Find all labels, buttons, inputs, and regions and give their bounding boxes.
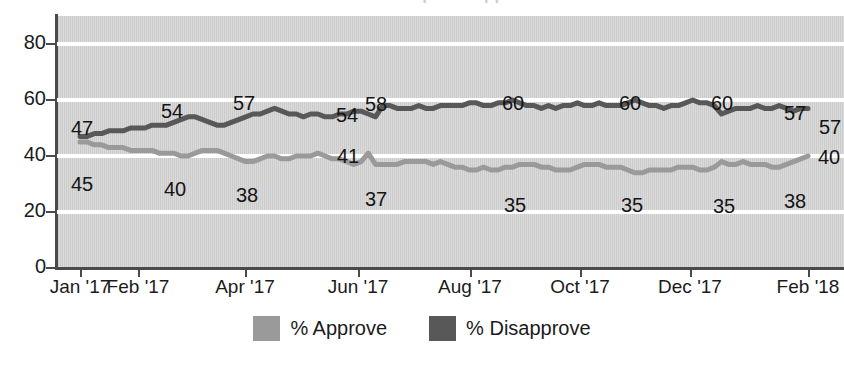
chart-root: President Trump Job Approval 020406080 4… (0, 0, 844, 367)
legend-item-disapprove[interactable]: % Disapprove (429, 316, 591, 341)
y-tick-mark-20 (46, 211, 56, 213)
legend-item-approve[interactable]: % Approve (253, 316, 387, 341)
data-label-0: 47 (71, 117, 93, 140)
y-tick-mark-60 (46, 99, 56, 101)
plot-area: 4745544057385458413760356035603557574038 (57, 16, 844, 268)
data-label-19: 38 (784, 190, 806, 213)
data-label-2: 54 (161, 100, 183, 123)
y-tick-mark-40 (46, 155, 56, 157)
legend-swatch-icon (429, 316, 456, 341)
data-label-8: 41 (337, 145, 359, 168)
series-lines (57, 16, 844, 268)
x-tick-label-1: Feb '17 (107, 276, 170, 298)
data-label-15: 35 (713, 195, 735, 218)
data-label-12: 60 (619, 92, 641, 115)
data-label-13: 35 (621, 194, 643, 217)
y-tick-label-0: 0 (0, 255, 46, 278)
y-tick-label-40: 40 (0, 143, 46, 166)
y-tick-label-80: 80 (0, 31, 46, 54)
data-label-14: 60 (711, 92, 733, 115)
chart-legend: % Approve% Disapprove (0, 316, 844, 341)
legend-label: % Approve (290, 317, 387, 340)
data-label-7: 58 (365, 93, 387, 116)
series-line-approve (80, 142, 808, 173)
data-label-9: 37 (365, 188, 387, 211)
y-axis-tick-labels: 020406080 (0, 16, 46, 268)
x-tick-label-6: Dec '17 (658, 276, 722, 298)
y-tick-mark-0 (46, 267, 56, 269)
chart-title-text: President Trump Job Approval (0, 0, 844, 5)
y-tick-label-60: 60 (0, 87, 46, 110)
data-label-6: 54 (336, 104, 358, 127)
data-label-16: 57 (784, 102, 806, 125)
x-tick-label-0: Jan '17 (50, 276, 111, 298)
data-label-17: 57 (819, 116, 841, 139)
data-label-5: 38 (236, 184, 258, 207)
data-label-10: 60 (502, 92, 524, 115)
data-label-1: 45 (71, 173, 93, 196)
data-label-3: 40 (164, 178, 186, 201)
legend-swatch-icon (253, 316, 280, 341)
x-tick-label-7: Feb '18 (777, 276, 840, 298)
data-label-18: 40 (818, 146, 840, 169)
y-tick-label-20: 20 (0, 199, 46, 222)
data-label-4: 57 (233, 92, 255, 115)
cropped-chart-title: President Trump Job Approval (0, 0, 844, 5)
x-tick-label-4: Aug '17 (438, 276, 502, 298)
x-tick-label-3: Jun '17 (328, 276, 389, 298)
x-tick-label-5: Oct '17 (550, 276, 610, 298)
series-line-disapprove (80, 100, 808, 136)
data-label-11: 35 (504, 194, 526, 217)
y-tick-mark-80 (46, 43, 56, 45)
x-tick-label-2: Apr '17 (215, 276, 275, 298)
x-axis-tick-labels: Jan '17Feb '17Apr '17Jun '17Aug '17Oct '… (57, 276, 844, 302)
legend-label: % Disapprove (466, 317, 591, 340)
